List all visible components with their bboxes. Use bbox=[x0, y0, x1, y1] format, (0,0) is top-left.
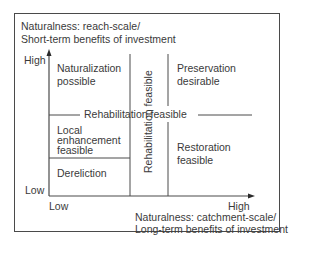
region-naturalization-line2: possible bbox=[57, 75, 96, 88]
region-preservation-line2: desirable bbox=[177, 75, 220, 88]
x-axis-arrow-icon bbox=[248, 194, 255, 199]
band-horizontal-label: Rehabilitation feasible bbox=[84, 108, 187, 121]
y-axis-high-label: High bbox=[24, 54, 46, 67]
x-axis-low-label: Low bbox=[49, 200, 68, 213]
x-axis-title-line2: Long-term benefits of investment bbox=[135, 223, 288, 236]
x-axis-title-line1: Naturalness: catchment-scale/ bbox=[135, 211, 276, 224]
region-restoration-line1: Restoration bbox=[177, 141, 231, 154]
region-local-enhancement-line3: feasible bbox=[57, 144, 93, 157]
y-axis-arrow-icon bbox=[47, 49, 52, 56]
region-dereliction: Dereliction bbox=[57, 167, 107, 180]
region-naturalization-line1: Naturalization bbox=[57, 62, 121, 75]
y-axis-low-label: Low bbox=[25, 184, 44, 197]
region-preservation-line1: Preservation bbox=[177, 62, 236, 75]
band-vertical-label: Rehabilitation feasible bbox=[142, 73, 154, 173]
region-restoration-line2: feasible bbox=[177, 154, 213, 167]
